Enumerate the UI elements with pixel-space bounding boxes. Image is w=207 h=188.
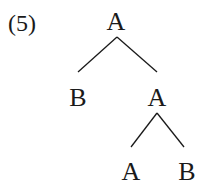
node-root: A [107, 9, 126, 35]
edge-right-left [131, 113, 157, 147]
node-right-child: A [148, 85, 167, 111]
edge-root-right [117, 37, 157, 72]
node-right-right-grandchild: B [178, 159, 195, 185]
node-left-child: B [69, 85, 86, 111]
node-right-left-grandchild: A [122, 159, 141, 185]
edge-right-right [157, 113, 184, 147]
tree-edges [0, 0, 207, 188]
edge-root-left [78, 37, 117, 72]
